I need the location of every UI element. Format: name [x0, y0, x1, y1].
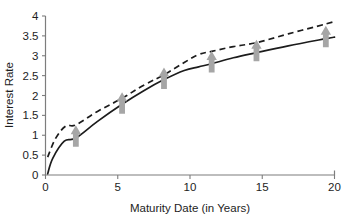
chart-container: 00.511.522.533.54 05101520 Maturity Date…: [0, 0, 345, 219]
y-tick-label: 3: [32, 50, 38, 62]
x-axis: 05101520: [42, 171, 341, 194]
up-arrow-marker: [321, 26, 331, 48]
x-axis-title: Maturity Date (in Years): [130, 202, 250, 214]
y-tick-label: 0: [32, 169, 38, 181]
y-tick-label: 2: [32, 90, 38, 102]
series-line-dashed-curve: [48, 22, 335, 158]
y-axis: 00.511.522.533.54: [23, 10, 46, 181]
y-tick-label: 2.5: [23, 70, 39, 82]
x-tick-label: 10: [184, 181, 197, 193]
up-arrow-markers: [71, 26, 331, 147]
x-tick-label: 20: [328, 181, 341, 193]
y-tick-label: 1: [32, 129, 38, 141]
x-tick-label: 0: [42, 181, 48, 193]
x-axis-line: [46, 171, 335, 176]
y-tick-label: 4: [32, 10, 39, 22]
interest-rate-line-chart: 00.511.522.533.54 05101520 Maturity Date…: [0, 0, 345, 219]
x-tick-label: 5: [115, 181, 121, 193]
y-tick-label: 3.5: [23, 30, 39, 42]
y-axis-title: Interest Rate: [3, 62, 15, 128]
up-arrow-marker: [206, 51, 216, 73]
y-tick-labels: 00.511.522.533.54: [23, 10, 40, 181]
x-tick-labels: 05101520: [42, 181, 341, 193]
y-tick-label: 1.5: [23, 109, 39, 121]
y-tick-label: 0.5: [23, 149, 39, 161]
data-series-group: [48, 22, 335, 174]
x-tick-label: 15: [256, 181, 269, 193]
